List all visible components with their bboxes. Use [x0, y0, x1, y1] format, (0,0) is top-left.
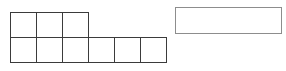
- empty-rectangle[interactable]: [175, 7, 282, 34]
- grid-cell[interactable]: [36, 37, 63, 63]
- grid-cell[interactable]: [10, 37, 37, 63]
- grid-cell[interactable]: [140, 37, 167, 63]
- grid-cell[interactable]: [62, 12, 89, 38]
- grid-cell[interactable]: [62, 37, 89, 63]
- grid-cell[interactable]: [88, 37, 115, 63]
- polyomino-grid: [10, 12, 166, 63]
- grid-row: [10, 12, 166, 38]
- grid-cell[interactable]: [114, 37, 141, 63]
- grid-cell[interactable]: [10, 12, 37, 38]
- grid-row: [10, 37, 166, 63]
- grid-cell[interactable]: [36, 12, 63, 38]
- figure-canvas: [0, 0, 286, 71]
